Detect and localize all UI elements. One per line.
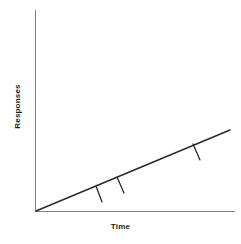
- cumulative-record-chart: Responses Time: [0, 0, 241, 244]
- diagonal-trend-line: [36, 130, 230, 211]
- x-axis-label: Time: [0, 222, 241, 231]
- chart-plot-area: [0, 0, 241, 244]
- slash-mark-2: [117, 177, 124, 193]
- slash-mark-1: [96, 186, 102, 202]
- slash-mark-3: [193, 144, 200, 160]
